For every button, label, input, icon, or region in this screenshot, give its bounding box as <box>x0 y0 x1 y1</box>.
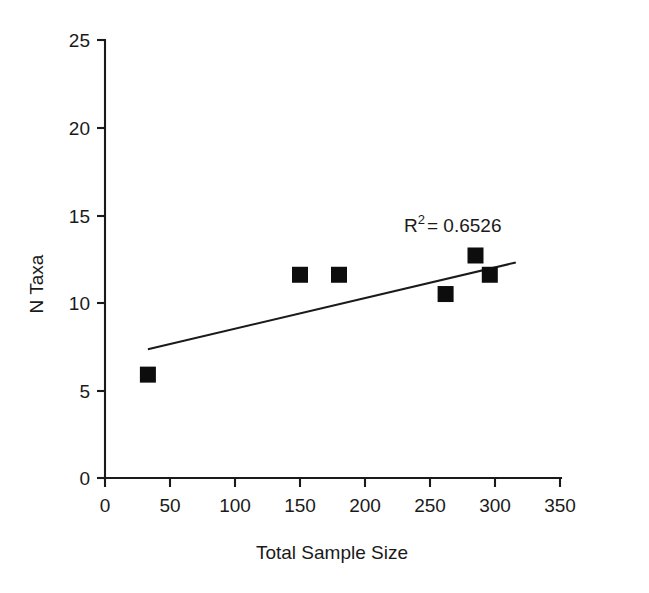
data-point <box>438 286 454 302</box>
scatter-chart-figure: N Taxa 25 20 15 10 5 0 <box>0 0 649 593</box>
data-point <box>482 267 498 283</box>
y-tick-label-5: 5 <box>79 381 90 402</box>
x-tick-label-0: 0 <box>100 495 111 516</box>
y-tick-label-15: 15 <box>69 206 90 227</box>
x-axis-title: Total Sample Size <box>256 542 408 563</box>
r-squared-superscript: 2 <box>418 212 425 227</box>
y-axis-ticks <box>97 40 105 478</box>
x-tick-label-300: 300 <box>479 495 511 516</box>
y-axis-tick-labels: 25 20 15 10 5 0 <box>69 30 90 489</box>
r-squared-base: R <box>404 215 418 236</box>
data-point-group <box>140 247 498 382</box>
x-tick-label-150: 150 <box>284 495 316 516</box>
data-point <box>468 247 484 263</box>
r-squared-text: R2= 0.6526 <box>404 212 501 236</box>
r-squared-rest: = 0.6526 <box>427 215 502 236</box>
x-axis-ticks <box>105 478 560 487</box>
y-axis-title: N Taxa <box>26 254 47 313</box>
y-tick-label-25: 25 <box>69 30 90 51</box>
plot-canvas: N Taxa 25 20 15 10 5 0 <box>0 0 649 593</box>
x-tick-label-100: 100 <box>219 495 251 516</box>
data-point <box>331 267 347 283</box>
data-point <box>292 267 308 283</box>
r-squared-annotation: R2= 0.6526 <box>404 212 501 236</box>
data-point <box>140 367 156 383</box>
x-axis-tick-labels: 0 50 100 150 200 250 300 350 <box>100 495 576 516</box>
y-tick-label-0: 0 <box>79 468 90 489</box>
x-tick-label-350: 350 <box>544 495 576 516</box>
y-tick-label-20: 20 <box>69 118 90 139</box>
y-tick-label-10: 10 <box>69 293 90 314</box>
x-tick-label-50: 50 <box>159 495 180 516</box>
x-tick-label-200: 200 <box>349 495 381 516</box>
x-tick-label-250: 250 <box>414 495 446 516</box>
